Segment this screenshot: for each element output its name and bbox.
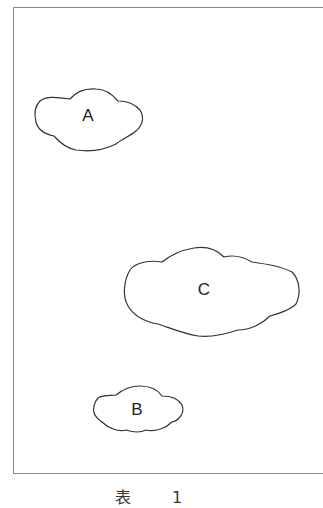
cloud-c-label: C: [198, 280, 210, 300]
cloud-a-label: A: [82, 106, 93, 126]
figure-caption: 表 1: [0, 484, 315, 508]
cloud-c-outline: [124, 247, 299, 336]
cloud-b-label: B: [131, 400, 142, 420]
